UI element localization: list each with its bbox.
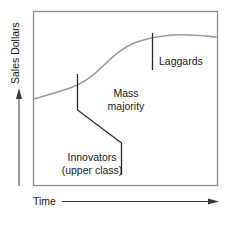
annotation-laggards: Laggards [159,55,203,67]
annotation-innovators-line1: Innovators [67,151,116,163]
y-axis-arrowhead-icon [16,88,22,99]
annotation-mass-majority-line1: Mass [113,87,138,99]
diffusion-of-innovation-chart: Laggards Mass majority Innovators (upper… [0,0,234,225]
annotation-mass-majority-line2: majority [108,100,146,112]
y-axis-label: Sales Dollars [9,22,21,84]
x-axis-arrowhead-icon [208,199,219,205]
x-axis-label: Time [33,195,56,207]
annotation-innovators-line2: (upper class) [62,164,123,176]
